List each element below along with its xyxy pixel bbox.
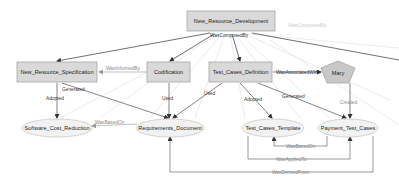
node-new-resource-specification[interactable]: New_Resource_Specification — [17, 62, 97, 82]
edge-label-derived: WasDerivedFrom — [272, 170, 309, 175]
svg-text:Test_Cases_Template: Test_Cases_Template — [245, 125, 300, 131]
edge-label-spec-adopted: Adopted — [46, 96, 64, 101]
svg-text:Codification: Codification — [154, 69, 183, 75]
edge-label-tcd-generated: Generated — [282, 94, 305, 99]
edge-label-req-basedon: WasBasedOn — [95, 120, 125, 125]
node-new-resource-development[interactable]: New_Resource_Development — [187, 11, 275, 31]
node-test-cases-template[interactable]: Test_Cases_Template — [242, 119, 304, 137]
edge-label-tcd-adopted: Adopted — [244, 97, 262, 102]
edge-label-mary-created: Created — [340, 100, 357, 105]
node-requirements-document[interactable]: Requirements_Document — [136, 119, 204, 137]
edge-label-associated: WasAssociatedWith — [276, 70, 319, 75]
edge-label-spec-generated: Generated — [62, 87, 85, 92]
edge-label-ptc-basedon: WasBasedOn — [286, 144, 316, 149]
ghost-edge-label: WasComposedBy — [288, 23, 327, 28]
svg-text:Requirements_Document: Requirements_Document — [138, 125, 202, 131]
edge-label-applied: WasAppliedTo — [276, 157, 307, 162]
node-codification[interactable]: Codification — [147, 62, 190, 82]
node-payment-test-cases[interactable]: Payment_Test_Cases — [318, 119, 378, 137]
edge-label-informed: WasInformedBy — [106, 66, 141, 71]
svg-text:Payment_Test_Cases: Payment_Test_Cases — [321, 125, 376, 131]
edge-label-cert-used: Used — [162, 96, 174, 101]
provenance-diagram: WasComposedBy WasComposedBy WasInformedB… — [0, 0, 399, 185]
edge-label-composed: WasComposedBy — [210, 33, 249, 38]
svg-text:New_Resource_Development: New_Resource_Development — [194, 18, 269, 24]
svg-text:New_Resource_Specification: New_Resource_Specification — [20, 69, 93, 75]
edge-label-tcd-used: Used — [204, 91, 216, 96]
svg-text:Mary: Mary — [332, 70, 345, 76]
node-software-cost-reduction[interactable]: Software_Cost_Reduction — [22, 119, 92, 137]
node-mary[interactable]: Mary — [321, 61, 355, 83]
node-test-cases-definition[interactable]: Test_Cases_Definition — [209, 62, 272, 82]
svg-text:Software_Cost_Reduction: Software_Cost_Reduction — [25, 125, 90, 131]
svg-text:Test_Cases_Definition: Test_Cases_Definition — [213, 69, 269, 75]
